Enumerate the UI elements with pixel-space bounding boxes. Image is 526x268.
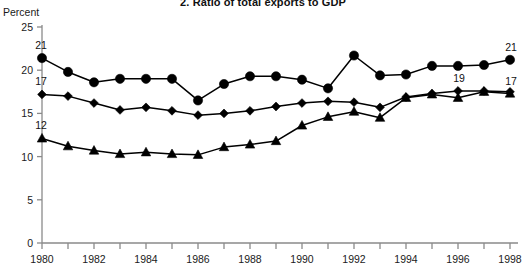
data-point-circle — [193, 96, 202, 105]
data-point-diamond — [324, 97, 333, 106]
start-value-label-triangle: 12 — [35, 119, 47, 131]
chart-figure: 2. Ratio of total exports to GDP Percent… — [0, 0, 526, 268]
line-chart-plot: 0510152025 19801982198419861988199019921… — [0, 0, 526, 268]
data-series-group — [37, 51, 515, 159]
data-point-triangle — [37, 133, 47, 142]
start-value-label-diamond: 17 — [35, 75, 47, 87]
data-point-circle — [297, 75, 306, 84]
x-tick-label: 1994 — [394, 253, 418, 265]
data-point-diamond — [194, 111, 203, 120]
data-point-diamond — [64, 92, 73, 101]
y-tick-label: 0 — [27, 237, 33, 249]
data-point-diamond — [90, 99, 99, 108]
data-point-diamond — [220, 109, 229, 118]
x-tick-label: 1986 — [186, 253, 210, 265]
y-tick-label: 20 — [21, 64, 33, 76]
x-tick-label: 1988 — [238, 253, 262, 265]
data-point-circle — [349, 51, 358, 60]
data-point-circle — [37, 54, 46, 63]
y-tick-label: 25 — [21, 21, 33, 33]
end-value-label-diamond: 19 — [453, 72, 465, 84]
data-point-diamond — [116, 106, 125, 115]
data-point-circle — [375, 71, 384, 80]
x-axis: 1980198219841986198819901992199419961998 — [30, 243, 522, 265]
data-point-circle — [219, 79, 228, 88]
y-tick-label: 5 — [27, 194, 33, 206]
end-value-label-triangle: 17 — [505, 75, 517, 87]
series-value-labels: 212117191217 — [35, 39, 517, 131]
x-tick-label: 1990 — [290, 253, 314, 265]
x-tick-label: 1996 — [446, 253, 470, 265]
y-tick-label: 10 — [21, 151, 33, 163]
data-point-diamond — [350, 98, 359, 107]
data-point-circle — [505, 55, 514, 64]
data-point-circle — [323, 84, 332, 93]
data-point-circle — [63, 67, 72, 76]
x-tick-label: 1982 — [82, 253, 106, 265]
data-point-circle — [141, 74, 150, 83]
x-tick-label: 1980 — [30, 253, 54, 265]
start-value-label-circle: 21 — [35, 39, 47, 51]
data-point-diamond — [272, 102, 281, 111]
data-point-circle — [401, 70, 410, 79]
series-line-triangle — [42, 92, 510, 155]
data-point-diamond — [298, 99, 307, 108]
data-point-circle — [89, 78, 98, 87]
data-point-circle — [427, 61, 436, 70]
data-point-diamond — [38, 90, 47, 99]
data-point-circle — [115, 74, 124, 83]
x-tick-label: 1984 — [134, 253, 158, 265]
y-axis-label: Percent — [3, 6, 39, 18]
data-point-circle — [479, 60, 488, 69]
y-tick-label: 15 — [21, 107, 33, 119]
data-point-triangle — [141, 147, 151, 156]
data-point-triangle — [271, 136, 281, 145]
chart-title: 2. Ratio of total exports to GDP — [0, 0, 526, 8]
data-point-circle — [271, 72, 280, 81]
data-point-circle — [167, 74, 176, 83]
data-point-circle — [453, 61, 462, 70]
data-point-diamond — [376, 103, 385, 112]
end-value-label-circle: 21 — [505, 41, 517, 53]
x-tick-label: 1998 — [498, 253, 522, 265]
data-point-triangle — [349, 107, 359, 116]
x-tick-label: 1992 — [342, 253, 366, 265]
data-point-diamond — [168, 106, 177, 115]
data-point-circle — [245, 72, 254, 81]
data-point-diamond — [246, 106, 255, 115]
data-point-diamond — [142, 103, 151, 112]
